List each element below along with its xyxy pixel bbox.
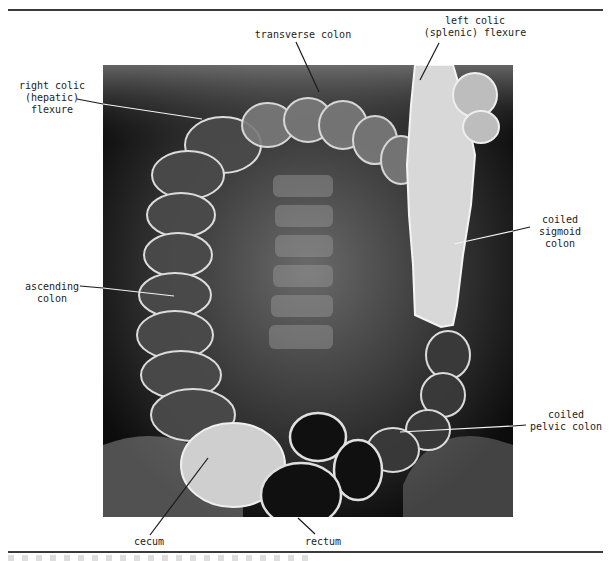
leader-rectum [298,518,315,534]
colon-illustration [103,65,513,517]
label-cecum: cecum [127,536,171,548]
label-left-colic-flexure: left colic (splenic) flexure [400,15,550,39]
cropped-caption-strip [8,555,308,561]
label-rectum: rectum [298,536,348,548]
label-ascending-colon: ascending colon [20,281,84,305]
label-coiled-pelvic-colon: coiled pelvic colon [522,409,610,433]
label-right-colic-flexure: right colic (hepatic) flexure [8,80,96,116]
xray-image [103,65,513,517]
label-transverse-colon: transverse colon [248,29,358,41]
bottom-rule [8,551,603,553]
top-rule [8,9,603,11]
label-coiled-sigmoid-colon: coiled sigmoid colon [528,214,592,250]
